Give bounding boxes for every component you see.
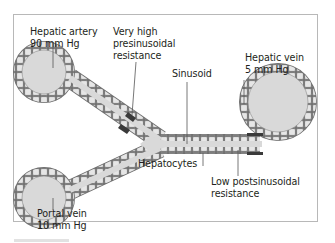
presinusoidal-line1: Very high — [113, 26, 175, 38]
postsinusoidal-line1: Low postsinusoidal — [211, 176, 300, 188]
portal-vein-name: Portal vein — [37, 208, 87, 220]
postsinusoidal-line2: resistance — [211, 188, 300, 200]
hepatic-artery-name: Hepatic artery — [30, 26, 98, 38]
hepatic-artery-label: Hepatic artery 90 mm Hg — [30, 26, 98, 50]
portal-vein-pressure: 10 mm Hg — [37, 220, 87, 232]
portal-vein-label: Portal vein 10 mm Hg — [37, 208, 87, 232]
hepatic-artery-pressure: 90 mm Hg — [30, 38, 98, 50]
hepatocytes-label: Hepatocytes — [138, 158, 197, 170]
hepatic-vein-pressure: 5 mm Hg — [245, 64, 304, 76]
caption-stub — [14, 239, 69, 242]
postsinusoidal-resistance-label: Low postsinusoidal resistance — [211, 176, 300, 200]
hepatic-vein-label: Hepatic vein 5 mm Hg — [245, 52, 304, 76]
presinusoidal-resistance-label: Very high presinusoidal resistance — [113, 26, 175, 62]
hepatic-vein-name: Hepatic vein — [245, 52, 304, 64]
presinusoidal-line3: resistance — [113, 50, 175, 62]
sinusoid-label: Sinusoid — [172, 68, 212, 80]
presinusoidal-line2: presinusoidal — [113, 38, 175, 50]
